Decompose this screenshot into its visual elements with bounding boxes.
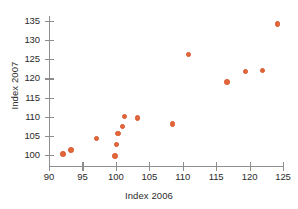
y-tick-mark — [45, 40, 54, 41]
x-tick-mark — [149, 162, 150, 171]
plot-area: 100105110115120125130135 909510010511011… — [0, 0, 298, 209]
y-axis-line — [49, 16, 50, 167]
data-point — [224, 79, 230, 85]
x-axis-title: Index 2006 — [0, 190, 298, 201]
data-point — [243, 69, 249, 75]
y-tick-label: 130 — [14, 35, 40, 45]
x-tick-mark — [49, 162, 50, 171]
data-point — [170, 121, 176, 127]
data-point — [115, 131, 121, 137]
x-tick-label: 110 — [168, 172, 198, 182]
x-tick-mark — [250, 162, 251, 171]
data-point — [68, 147, 74, 153]
x-tick-label: 125 — [268, 172, 298, 182]
x-tick-mark — [183, 162, 184, 171]
x-tick-mark — [216, 162, 217, 171]
data-point — [122, 114, 128, 120]
x-tick-mark — [82, 162, 83, 171]
data-point — [114, 142, 120, 148]
data-point — [260, 68, 266, 74]
y-tick-mark — [45, 155, 54, 156]
x-tick-mark — [283, 162, 284, 171]
y-tick-label: 105 — [14, 131, 40, 141]
y-tick-mark — [45, 98, 54, 99]
data-point — [186, 52, 192, 58]
data-point — [135, 115, 141, 121]
data-point — [112, 153, 118, 159]
x-tick-label: 120 — [235, 172, 265, 182]
y-axis-title: Index 2007 — [9, 46, 20, 126]
x-tick-label: 115 — [201, 172, 231, 182]
x-tick-label: 105 — [134, 172, 164, 182]
x-tick-label: 100 — [101, 172, 131, 182]
y-tick-mark — [45, 21, 54, 22]
data-point — [120, 124, 126, 130]
y-tick-mark — [45, 117, 54, 118]
x-tick-mark — [116, 162, 117, 171]
x-tick-label: 95 — [67, 172, 97, 182]
x-tick-label: 90 — [34, 172, 64, 182]
data-point — [94, 136, 100, 142]
y-tick-mark — [45, 59, 54, 60]
y-tick-label: 135 — [14, 16, 40, 26]
scatter-plot-screenshot: 100105110115120125130135 909510010511011… — [0, 0, 298, 209]
data-point — [275, 21, 281, 27]
y-tick-label: 100 — [14, 150, 40, 160]
data-point — [60, 151, 66, 157]
y-tick-mark — [45, 136, 54, 137]
y-tick-mark — [45, 78, 54, 79]
